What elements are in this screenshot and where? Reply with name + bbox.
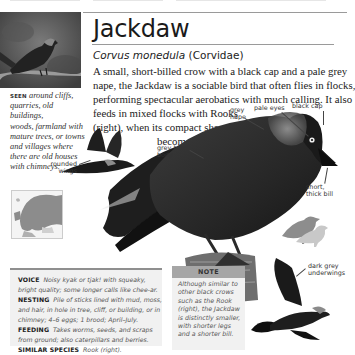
label-short-thick-bill: short,thick bill <box>306 184 333 199</box>
label-grey-black-body: grey-blackbody <box>157 145 190 160</box>
note-heading: NOTE <box>172 266 245 278</box>
label-line: thick bill <box>306 190 333 198</box>
species-info-box: VOICE Noisy kyak or tjak! with squeaky, … <box>10 268 162 346</box>
label-pale-eyes: pale eyes <box>254 105 285 112</box>
note-line: (right), the Jackdaw <box>178 305 246 313</box>
note-line: and a shorter bill. <box>178 330 246 338</box>
info-text: and hair, in hole in tree, cliff, or bui… <box>18 306 160 313</box>
info-text: Noisy kyak or tjak! with squeaky, <box>43 276 145 283</box>
info-text: chimney; 4–6 eggs; 1 brood; April–July. <box>18 316 138 323</box>
note-text: Although similar to other black crows su… <box>178 280 246 339</box>
info-row-nesting-cont: chimney; 4–6 eggs; 1 brood; April–July. <box>18 315 164 325</box>
note-line: other black crows <box>178 288 246 296</box>
note-line: such as the Rook <box>178 297 246 305</box>
info-row-voice: VOICE Noisy kyak or tjak! with squeaky, <box>18 275 164 285</box>
info-row-feeding-cont: from ground; also caterpillars and berri… <box>18 335 164 345</box>
info-label: NESTING <box>18 296 49 303</box>
info-label: VOICE <box>18 276 40 283</box>
info-row-feeding: FEEDING Takes worms, seeds, and scraps <box>18 325 164 335</box>
info-row-nesting: NESTING Pile of sticks lined with mud, m… <box>18 295 164 305</box>
label-line: wings <box>59 167 77 175</box>
note-line: Although similar to <box>178 280 246 288</box>
range-map <box>11 190 63 239</box>
info-row-nesting-cont: and hair, in hole in tree, cliff, or bui… <box>18 305 164 315</box>
leader-black-cap <box>323 111 324 125</box>
label-grey-nape: greynape <box>230 107 246 122</box>
label-line: underwings <box>308 269 345 277</box>
info-row-similar-species: SIMILAR SPECIES Rook (right). <box>18 345 164 355</box>
info-text: Rook (right). <box>83 346 122 353</box>
note-box: NOTE Although similar to other black cro… <box>172 266 245 350</box>
label-dark-grey-underwings: dark greyunderwings <box>308 263 345 278</box>
label-black-cap: black cap <box>292 103 322 110</box>
info-text: from ground; also caterpillars and berri… <box>18 336 149 343</box>
info-row-voice-cont: bright quality; some longer calls like c… <box>18 285 164 295</box>
info-text: Takes worms, seeds, and scraps <box>53 326 153 333</box>
label-line: body <box>157 151 173 159</box>
info-label: SIMILAR SPECIES <box>18 346 79 353</box>
info-text: bright quality; some longer calls like c… <box>18 286 158 293</box>
info-text: Pile of sticks lined with mud, moss, <box>53 296 162 303</box>
label-rounded-wings: roundedwings <box>47 161 77 176</box>
info-label: FEEDING <box>18 326 49 333</box>
note-line: is distinctly smaller, <box>178 314 246 322</box>
note-line: with shorter legs <box>178 322 246 330</box>
label-line: nape <box>230 113 246 121</box>
